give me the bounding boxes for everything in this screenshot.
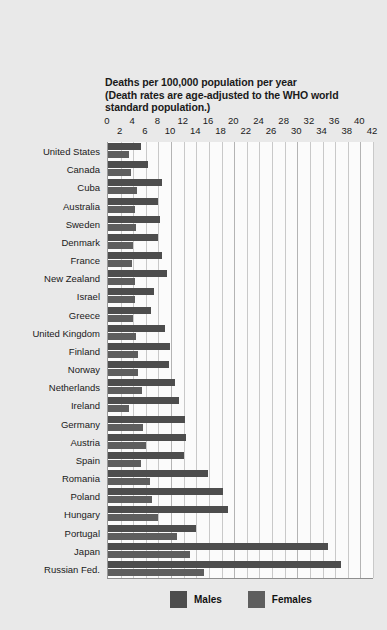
- plot-area: [107, 142, 373, 578]
- bar-female: [108, 151, 129, 158]
- bar-row: [108, 270, 373, 288]
- bar-female: [108, 569, 204, 576]
- bar-female: [108, 351, 138, 358]
- bar-female: [108, 260, 132, 267]
- bar-female: [108, 533, 177, 540]
- x-tick-label: 14: [190, 125, 201, 136]
- x-tick-label: 36: [329, 115, 340, 126]
- bar-male: [108, 198, 158, 205]
- x-tick-label: 10: [165, 125, 176, 136]
- bar-female: [108, 424, 143, 431]
- x-axis-line: [107, 578, 373, 579]
- bar-male: [108, 470, 208, 477]
- bar-row: [108, 488, 373, 506]
- bar-male: [108, 488, 223, 495]
- category-label: France: [0, 255, 100, 266]
- x-tick-label: 42: [367, 125, 378, 136]
- category-label: Canada: [0, 164, 100, 175]
- x-tick-label: 32: [304, 115, 315, 126]
- bar-male: [108, 397, 179, 404]
- category-label: United Kingdom: [0, 327, 100, 338]
- bar-male: [108, 543, 328, 550]
- bar-male: [108, 525, 196, 532]
- chart-figure: Deaths per 100,000 population per year (…: [0, 0, 387, 630]
- bar-rows: [108, 142, 373, 578]
- bar-male: [108, 325, 165, 332]
- category-label: Denmark: [0, 236, 100, 247]
- bar-female: [108, 514, 158, 521]
- bar-male: [108, 179, 162, 186]
- category-label: Russian Fed.: [0, 563, 100, 574]
- bar-female: [108, 296, 135, 303]
- bar-row: [108, 179, 373, 197]
- x-tick-label: 26: [266, 125, 277, 136]
- bar-male: [108, 270, 167, 277]
- bar-female: [108, 206, 135, 213]
- bar-row: [108, 543, 373, 561]
- category-label: Ireland: [0, 400, 100, 411]
- bar-male: [108, 416, 185, 423]
- bar-male: [108, 143, 141, 150]
- category-label: Finland: [0, 345, 100, 356]
- legend-swatch-females-icon: [248, 591, 265, 608]
- category-label: Sweden: [0, 218, 100, 229]
- bar-male: [108, 561, 341, 568]
- x-tick-label: 12: [177, 115, 188, 126]
- bar-row: [108, 198, 373, 216]
- category-label: Australia: [0, 200, 100, 211]
- category-label: Netherlands: [0, 382, 100, 393]
- bar-row: [108, 561, 373, 579]
- bar-row: [108, 379, 373, 397]
- bar-male: [108, 252, 162, 259]
- x-tick-label: 4: [130, 115, 135, 126]
- bar-row: [108, 525, 373, 543]
- bar-row: [108, 288, 373, 306]
- bar-female: [108, 242, 133, 249]
- bar-female: [108, 551, 190, 558]
- bar-female: [108, 387, 142, 394]
- bar-male: [108, 288, 154, 295]
- bar-row: [108, 216, 373, 234]
- category-label: Poland: [0, 491, 100, 502]
- bar-male: [108, 161, 148, 168]
- gridline: [373, 142, 374, 578]
- category-label: Germany: [0, 418, 100, 429]
- x-tick-label: 40: [354, 115, 365, 126]
- y-axis-category-labels: United StatesCanadaCubaAustraliaSwedenDe…: [0, 142, 100, 578]
- bar-male: [108, 216, 160, 223]
- category-label: Spain: [0, 454, 100, 465]
- bar-row: [108, 416, 373, 434]
- bar-male: [108, 379, 175, 386]
- bar-female: [108, 315, 133, 322]
- bar-female: [108, 187, 137, 194]
- bar-female: [108, 478, 150, 485]
- category-label: Norway: [0, 364, 100, 375]
- bar-row: [108, 234, 373, 252]
- legend-item-males: Males: [170, 591, 222, 608]
- category-label: New Zealand: [0, 273, 100, 284]
- bar-row: [108, 307, 373, 325]
- x-tick-label: 2: [117, 125, 122, 136]
- bar-row: [108, 161, 373, 179]
- bar-male: [108, 452, 184, 459]
- bar-row: [108, 506, 373, 524]
- category-label: Romania: [0, 473, 100, 484]
- bar-row: [108, 361, 373, 379]
- bar-male: [108, 234, 158, 241]
- x-axis-tick-labels: 024681012141618202224262830323436384042: [0, 115, 387, 139]
- x-tick-label: 24: [253, 115, 264, 126]
- bar-row: [108, 143, 373, 161]
- bar-female: [108, 278, 135, 285]
- legend-label-males: Males: [194, 594, 222, 605]
- bar-row: [108, 397, 373, 415]
- bar-row: [108, 325, 373, 343]
- x-tick-label: 34: [316, 125, 327, 136]
- bar-male: [108, 343, 170, 350]
- x-tick-label: 16: [203, 115, 214, 126]
- chart-title: Deaths per 100,000 population per year (…: [105, 76, 375, 114]
- x-tick-label: 30: [291, 125, 302, 136]
- bar-male: [108, 361, 169, 368]
- chart-title-line-1: Deaths per 100,000 population per year: [105, 76, 375, 89]
- bar-female: [108, 442, 146, 449]
- bar-female: [108, 169, 131, 176]
